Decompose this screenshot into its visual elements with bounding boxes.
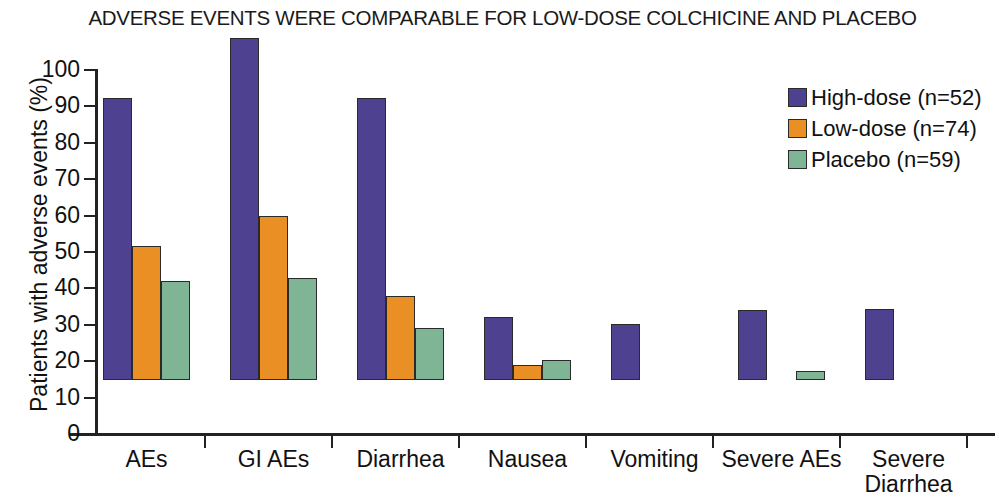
bar-plac-0 bbox=[161, 281, 190, 380]
x-axis-category-label: Nausea bbox=[462, 447, 593, 472]
x-axis-category-label: Severe AEs bbox=[716, 447, 847, 472]
bar-low-0 bbox=[132, 246, 161, 380]
legend-item-label: Low-dose (n=74) bbox=[811, 118, 977, 140]
legend-color-swatch bbox=[788, 119, 807, 138]
bar-low-1 bbox=[259, 216, 288, 380]
legend-item: Placebo (n=59) bbox=[788, 145, 982, 174]
legend-color-swatch bbox=[788, 88, 807, 107]
x-axis-category-label: GI AEs bbox=[208, 447, 339, 472]
bar-high-6 bbox=[865, 309, 894, 380]
bar-high-4 bbox=[611, 324, 640, 380]
bar-plac-5 bbox=[796, 371, 825, 380]
bar-high-0 bbox=[103, 98, 132, 380]
bar-plac-1 bbox=[288, 278, 317, 380]
legend-item: Low-dose (n=74) bbox=[788, 114, 982, 143]
x-axis-category-label: AEs bbox=[81, 447, 212, 472]
bar-high-1 bbox=[230, 38, 259, 380]
legend-item-label: Placebo (n=59) bbox=[811, 149, 961, 171]
bar-high-3 bbox=[484, 317, 513, 380]
legend-item: High-dose (n=52) bbox=[788, 83, 982, 112]
legend-color-swatch bbox=[788, 150, 807, 169]
chart-legend: High-dose (n=52)Low-dose (n=74)Placebo (… bbox=[788, 83, 982, 176]
bars-layer bbox=[0, 0, 1005, 434]
x-axis-category-label: Diarrhea bbox=[335, 447, 466, 472]
bar-low-2 bbox=[386, 296, 415, 380]
x-axis-category-label: Severe Diarrhea bbox=[843, 447, 974, 496]
bar-high-2 bbox=[357, 98, 386, 380]
x-axis-category-label: Vomiting bbox=[589, 447, 720, 472]
bar-plac-2 bbox=[415, 328, 444, 380]
bar-high-5 bbox=[738, 310, 767, 380]
legend-item-label: High-dose (n=52) bbox=[811, 87, 982, 109]
bar-plac-3 bbox=[542, 360, 571, 380]
bar-low-3 bbox=[513, 365, 542, 380]
